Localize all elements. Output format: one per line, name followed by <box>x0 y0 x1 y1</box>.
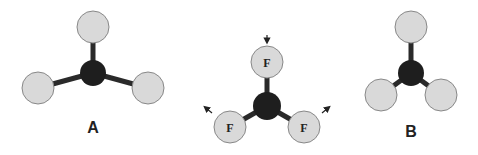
outer-atom <box>77 11 109 43</box>
arrow-up-left-icon <box>206 108 212 113</box>
molecule-diagram: A F F F B <box>0 0 478 155</box>
central-atom <box>80 60 106 86</box>
label-b: B <box>405 123 417 140</box>
molecule-a: A <box>22 11 164 136</box>
atom-label-right: F <box>300 121 307 135</box>
molecule-b: B <box>365 11 457 140</box>
label-a: A <box>87 119 99 136</box>
outer-atom <box>365 79 397 111</box>
outer-atom <box>132 72 164 104</box>
outer-atom <box>425 79 457 111</box>
outer-atom <box>22 72 54 104</box>
outer-atom <box>395 11 427 43</box>
atom-label-left: F <box>226 121 233 135</box>
molecule-bf3: F F F <box>206 35 328 143</box>
central-atom <box>253 92 281 120</box>
atom-label-top: F <box>263 56 270 70</box>
central-atom <box>398 60 424 86</box>
arrow-up-right-icon <box>322 108 328 113</box>
